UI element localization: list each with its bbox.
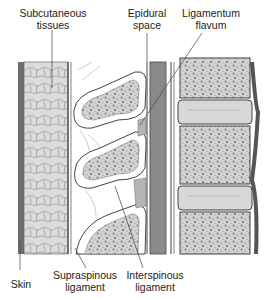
label-supraspinous-ligament: Supraspinous ligament: [50, 269, 120, 293]
vertebral-body-1: [180, 58, 250, 98]
vertebral-body-3: [180, 212, 250, 254]
intervertebral-disc-1: [178, 100, 252, 124]
skin-layer: [18, 62, 24, 254]
label-epidural-space: Epidural space: [122, 7, 172, 31]
spine-diagram: [0, 0, 277, 300]
ligamentum-flavum: [138, 118, 146, 136]
intervertebral-disc-2: [178, 186, 252, 210]
vertebral-body-2: [180, 126, 250, 184]
dura-thecal-sac: [150, 62, 166, 254]
label-skin: Skin: [6, 278, 36, 290]
label-interspinous-ligament: Interspinous ligament: [124, 269, 186, 293]
label-ligamentum-flavum: Ligamentum flavum: [175, 7, 247, 31]
label-subcutaneous-tissues: Subcutaneous tissues: [18, 7, 88, 31]
subcutaneous-layer: [24, 62, 68, 254]
anterior-longitudinal-ligament: [252, 62, 258, 254]
